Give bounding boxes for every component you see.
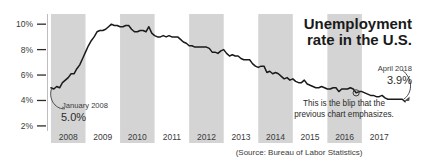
y-tick-label-6%: 6% [21, 70, 34, 80]
chart-title-line1: Unemployment [304, 15, 412, 32]
y-tick-label-2%: 2% [21, 121, 34, 131]
x-tick-label-2008: 2008 [59, 132, 78, 142]
x-tick-label-2011: 2011 [163, 132, 182, 142]
y-tick-label-4%: 4% [21, 95, 34, 105]
chart-title-line2: rate in the U.S. [307, 31, 412, 48]
unemployment-line-chart: 2%4%6%8%10% 2008200920102011201220132014… [0, 0, 422, 161]
x-tick-label-2009: 2009 [93, 132, 112, 142]
x-tick-label-2013: 2013 [232, 132, 251, 142]
blip-note-line1: This is the blip that the [303, 99, 385, 108]
x-tick-label-2012: 2012 [197, 132, 216, 142]
x-tick-label-2017: 2017 [370, 132, 389, 142]
x-tick-label-2016: 2016 [335, 132, 354, 142]
x-tick-label-2014: 2014 [266, 132, 285, 142]
x-tick-label-2015: 2015 [301, 132, 320, 142]
year-band-2012 [189, 14, 224, 143]
blip-note-line2: previous chart emphasizes. [294, 110, 394, 119]
end-annotation-date: April 2018 [378, 64, 412, 73]
start-annotation-value: 5.0% [61, 111, 86, 123]
chart-source-note: (Source: Bureau of Labor Statistics) [236, 148, 363, 157]
year-band-2010 [120, 14, 155, 143]
y-tick-label-8%: 8% [21, 45, 34, 55]
start-annotation-date: January 2008 [62, 101, 108, 110]
y-tick-label-10%: 10% [16, 19, 33, 29]
chart-root: 2%4%6%8%10% 2008200920102011201220132014… [0, 0, 422, 161]
end-annotation-value: 3.9% [387, 74, 412, 86]
x-tick-label-2010: 2010 [128, 132, 147, 142]
